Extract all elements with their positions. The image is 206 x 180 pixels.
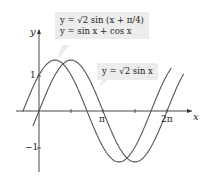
y-axis-label: y [30,27,36,37]
x-axis-label: x [193,112,199,122]
callout-base-curve: y = √2 sin x [97,63,158,80]
callout2-equation: y = √2 sin x [102,66,153,77]
x-tick-label-2pi: 2π [161,115,173,124]
x-axis-arrow-icon [187,109,192,113]
callout1-pointer [57,45,70,60]
y-axis-arrow-icon [37,29,41,34]
x-tick-label-pi: π [99,115,105,124]
y-tick-label-neg1: −1 [25,143,38,152]
callout1-equation-1: y = √2 sin (x + π/4) [60,15,144,26]
callout-shifted-curve: y = √2 sin (x + π/4) y = sin x + cos x [55,12,149,39]
callout1-equation-2: y = sin x + cos x [60,26,144,37]
y-tick-label-1: 1 [30,71,36,80]
